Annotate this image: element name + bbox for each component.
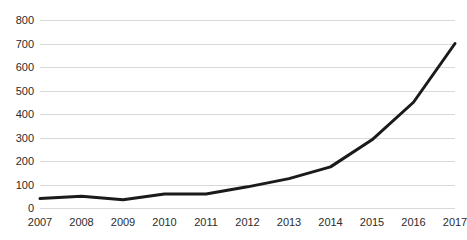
gridline-500 <box>40 91 455 92</box>
y-axis-tick-labels: 0100200300400500600700800 <box>0 20 34 208</box>
y-tick-label: 0 <box>28 203 34 214</box>
gridline-600 <box>40 67 455 68</box>
plot-area <box>40 20 455 208</box>
y-tick-label: 300 <box>16 132 34 143</box>
x-tick-label: 2015 <box>360 216 384 228</box>
x-tick-label: 2007 <box>28 216 52 228</box>
y-tick-label: 200 <box>16 156 34 167</box>
gridline-400 <box>40 114 455 115</box>
x-tick-label: 2017 <box>443 216 467 228</box>
gridline-300 <box>40 138 455 139</box>
y-tick-label: 800 <box>16 15 34 26</box>
x-tick-label: 2016 <box>401 216 425 228</box>
x-tick-label: 2008 <box>69 216 93 228</box>
x-axis-tick-labels: 2007200820092010201120122013201420152016… <box>40 212 455 236</box>
x-tick-label: 2011 <box>194 216 218 228</box>
y-tick-label: 100 <box>16 179 34 190</box>
gridline-800 <box>40 20 455 21</box>
y-tick-label: 500 <box>16 85 34 96</box>
x-tick-label: 2013 <box>277 216 301 228</box>
y-tick-label: 600 <box>16 62 34 73</box>
y-tick-label: 400 <box>16 109 34 120</box>
gridline-200 <box>40 161 455 162</box>
gridline-700 <box>40 44 455 45</box>
x-tick-label: 2010 <box>152 216 176 228</box>
x-tick-label: 2014 <box>318 216 342 228</box>
gridline-0 <box>40 208 455 209</box>
y-tick-label: 700 <box>16 38 34 49</box>
gridline-100 <box>40 185 455 186</box>
x-tick-label: 2012 <box>235 216 259 228</box>
x-tick-label: 2009 <box>111 216 135 228</box>
